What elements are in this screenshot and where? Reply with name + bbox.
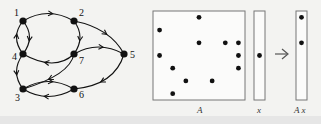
graph-node-5 xyxy=(120,50,127,57)
arrow-icon xyxy=(275,49,288,59)
graph-node-6 xyxy=(70,85,77,92)
matrix-entry xyxy=(170,66,175,71)
graph-node-label-1: 1 xyxy=(14,7,19,18)
matrix-entry xyxy=(210,79,215,84)
matrix-entry xyxy=(197,15,202,20)
matrix-entry xyxy=(197,40,202,45)
edge-6-3 xyxy=(23,89,74,97)
graph-node-label-7: 7 xyxy=(79,55,84,66)
matrix-a-label: A xyxy=(196,105,203,115)
matrix-entry xyxy=(157,53,162,58)
graph-node-label-5: 5 xyxy=(130,49,135,60)
vector-x-nonzeros xyxy=(257,53,262,58)
edge-3-6 xyxy=(23,82,74,90)
graph-node-label-6: 6 xyxy=(79,89,84,100)
vector-ax-label: A x xyxy=(293,105,306,115)
matrix-entry xyxy=(183,79,188,84)
graph-nodes: 1247536 xyxy=(12,7,135,103)
edge-1-4 xyxy=(23,21,30,54)
matrix-entry xyxy=(157,28,162,33)
graph-node-1 xyxy=(19,17,26,24)
matrix-entry xyxy=(236,66,241,71)
graph-node-2 xyxy=(70,17,77,24)
vector-ax-box xyxy=(296,11,307,100)
matrix-entry xyxy=(236,53,241,58)
directed-graph: 1247536 A x A x xyxy=(0,0,321,124)
graph-node-3 xyxy=(19,85,26,92)
matrix-entry xyxy=(170,91,175,96)
edge-7-5 xyxy=(74,47,124,54)
graph-node-label-2: 2 xyxy=(79,7,84,18)
edge-4-1 xyxy=(17,21,24,54)
vector-ax-entry xyxy=(299,40,304,45)
edge-4-3 xyxy=(17,54,24,89)
matrix-a-box xyxy=(153,11,245,100)
graph-node-7 xyxy=(70,50,77,57)
vector-x-label: x xyxy=(256,105,261,115)
edge-1-2 xyxy=(23,14,74,22)
matrix-entry xyxy=(223,40,228,45)
edge-2-7 xyxy=(74,21,80,54)
graph-node-label-3: 3 xyxy=(15,92,20,103)
graph-node-4 xyxy=(19,50,26,57)
graph-node-label-4: 4 xyxy=(12,51,17,62)
vector-ax-entry xyxy=(299,15,304,20)
edge-7-4 xyxy=(23,54,74,63)
graph-edges xyxy=(17,14,125,97)
vector-x-entry xyxy=(257,53,262,58)
matrix-entry xyxy=(236,40,241,45)
